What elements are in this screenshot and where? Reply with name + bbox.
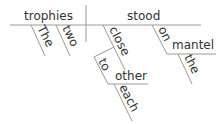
subject-word: trophies (24, 9, 73, 23)
modifier-word-two: two (59, 23, 81, 49)
sentence-diagram: trophies stood The two close to other ea… (0, 0, 223, 124)
prep-word-to: to (95, 56, 113, 73)
object-word-mantel: mantel (172, 38, 214, 52)
object-word-other: other (115, 69, 147, 83)
diagram-svg: trophies stood The two close to other ea… (0, 0, 223, 124)
modifier-word-each: each (116, 82, 142, 114)
verb-word: stood (127, 9, 160, 23)
modifier-word-the: The (34, 22, 57, 49)
modifier-word-the-2: the (181, 52, 202, 76)
